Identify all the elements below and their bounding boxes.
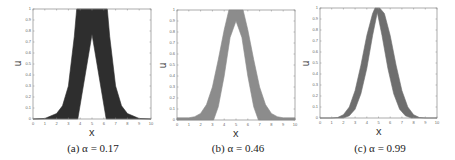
y-tick-label: 0.4 [312,71,318,76]
y-tick-label: 0.2 [312,93,318,98]
y-axis-label-c: u [300,61,311,67]
x-tick-label: 0 [319,120,322,125]
x-tick-label: 8 [412,120,415,125]
x-tick-label: 1 [331,120,334,125]
y-tick-label: 0.1 [312,104,318,109]
x-tick-label: 9 [424,120,427,125]
y-tick-label: 0.8 [312,27,318,32]
y-tick-label: 0.3 [312,82,318,87]
x-tick-label: 7 [401,120,404,125]
x-tick-label: 2 [342,120,345,125]
y-tick-label: 0.6 [312,49,318,54]
x-axis-label-c: x [376,125,382,137]
y-tick-label: 1 [316,5,319,10]
x-tick-label: 6 [389,120,392,125]
y-tick-label: 0.9 [312,16,318,21]
subplot-c: 01234567891000.10.20.30.40.50.60.70.80.9… [0,0,455,160]
y-tick-label: 0.5 [312,60,318,65]
plot-area-c: 01234567891000.10.20.30.40.50.60.70.80.9… [0,0,455,160]
caption-c: (c) α = 0.99 [335,142,425,154]
x-tick-label: 3 [354,120,357,125]
x-tick-label: 5 [377,120,380,125]
x-tick-label: 10 [435,120,440,125]
y-tick-label: 0.7 [312,38,318,43]
x-tick-label: 4 [366,120,369,125]
